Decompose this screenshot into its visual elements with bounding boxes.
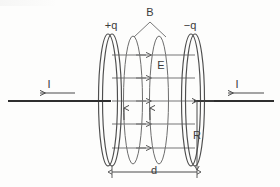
- label-current-left: I: [47, 78, 50, 90]
- capacitor-diagram: +q −q B E I I R d: [0, 0, 280, 187]
- label-electric-field: E: [157, 59, 164, 71]
- label-radius: R: [193, 129, 201, 141]
- b-leader-lines: [134, 22, 166, 37]
- label-separation: d: [151, 164, 157, 176]
- figure-canvas: +q −q B E I I R d: [0, 0, 280, 187]
- label-current-right: I: [235, 78, 238, 90]
- b-leader-path: [134, 22, 166, 37]
- label-charge-positive: +q: [105, 19, 118, 31]
- label-charge-negative: −q: [184, 19, 197, 31]
- label-magnetic-field: B: [146, 6, 153, 18]
